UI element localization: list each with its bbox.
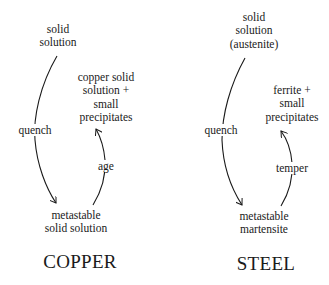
copper-title: COPPER [43, 251, 117, 273]
text-line: solution [39, 36, 76, 49]
copper-solid-solution: solid solution [39, 23, 76, 50]
text-line: small [265, 97, 318, 110]
copper-solid-solution-precipitates: copper solid solution + small precipitat… [78, 71, 135, 124]
text-line: metastable [239, 210, 288, 223]
text-line: solid [39, 23, 76, 36]
text-line: copper solid [78, 71, 135, 84]
text-line: solution [230, 24, 279, 37]
text-line: martensite [239, 223, 288, 236]
steel-temper-label: temper [275, 162, 309, 174]
text-line: precipitates [78, 111, 135, 124]
copper-age-label: age [97, 160, 115, 172]
copper-quench-label: quench [17, 124, 52, 136]
text-line: (austenite) [230, 38, 279, 51]
steel-metastable-martensite: metastable martensite [239, 210, 288, 237]
steel-solid-solution-austenite: solid solution (austenite) [230, 11, 279, 51]
text-line: small [78, 98, 135, 111]
steel-title: STEEL [237, 253, 296, 275]
text-line: metastable [45, 209, 107, 222]
text-line: solution + [78, 84, 135, 97]
text-line: solid [230, 11, 279, 24]
text-line: precipitates [265, 111, 318, 124]
steel-ferrite-precipitates: ferrite + small precipitates [265, 84, 318, 124]
text-line: solid solution [45, 222, 107, 235]
copper-metastable-solid-solution: metastable solid solution [45, 209, 107, 236]
text-line: ferrite + [265, 84, 318, 97]
steel-quench-label: quench [203, 124, 238, 136]
